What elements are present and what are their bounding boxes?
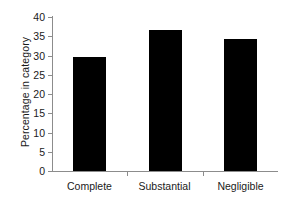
- y-tick-label: 25: [22, 70, 45, 80]
- y-tick-mark: [48, 152, 52, 153]
- bar: [73, 57, 106, 171]
- y-tick-label: 30: [22, 51, 45, 61]
- y-tick-mark: [48, 75, 52, 76]
- x-tick-mark: [203, 172, 204, 176]
- y-tick-mark: [48, 17, 52, 18]
- y-tick-label: 20: [22, 89, 45, 99]
- y-tick-mark: [48, 171, 52, 172]
- y-axis-line: [52, 16, 53, 172]
- y-tick-label: 10: [22, 128, 45, 138]
- y-tick-label: 0: [22, 166, 45, 176]
- y-tick-mark: [48, 113, 52, 114]
- y-tick-label: 5: [22, 147, 45, 157]
- x-tick-mark: [127, 172, 128, 176]
- bar-chart: Percentage in category 0510152025303540 …: [0, 0, 284, 203]
- x-tick-label: Substantial: [127, 180, 202, 192]
- y-tick-mark: [48, 133, 52, 134]
- x-tick-label: Complete: [52, 180, 127, 192]
- y-tick-label: 35: [22, 31, 45, 41]
- bar: [224, 39, 257, 171]
- y-tick-mark: [48, 56, 52, 57]
- bar: [149, 30, 182, 171]
- y-tick-label: 40: [22, 12, 45, 22]
- y-tick-mark: [48, 36, 52, 37]
- x-axis-line: [52, 171, 278, 172]
- y-tick-label: 15: [22, 108, 45, 118]
- y-tick-mark: [48, 94, 52, 95]
- x-tick-label: Negligible: [203, 180, 278, 192]
